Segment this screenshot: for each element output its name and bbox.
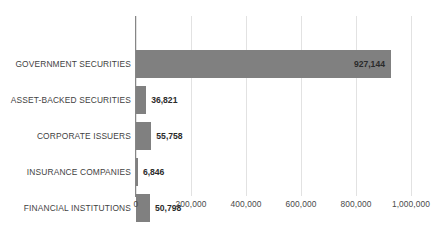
gridline [411,16,412,196]
bar-band: 36,821 [136,86,411,114]
bar-band: 6,846 [136,158,411,186]
plot-area: 927,144 36,821 55,758 6,846 50,798 [136,16,411,196]
tick-label: 1,000,000 [392,199,430,209]
category-label: GOVERNMENT SECURITIES [0,50,131,78]
bar-value-label: 36,821 [146,86,177,114]
tick-label: 600,000 [286,199,317,209]
bar[interactable] [136,122,151,150]
category-label: ASSET-BACKED SECURITIES [0,86,131,114]
bar[interactable] [136,86,146,114]
category-label: INSURANCE COMPANIES [0,158,131,186]
bar-value-label: 55,758 [151,122,182,150]
tick-label: 0 [134,199,139,209]
value-axis-tick-labels: 0 200,000 400,000 600,000 800,000 1,000,… [0,199,447,215]
tick-label: 200,000 [176,199,207,209]
bar-value-label: 6,846 [138,158,165,186]
category-label: CORPORATE ISSUERS [0,122,131,150]
bar-value-label: 927,144 [354,50,385,78]
tick-label: 400,000 [231,199,262,209]
bar-band: 55,758 [136,122,411,150]
bar-chart: GOVERNMENT SECURITIES ASSET-BACKED SECUR… [0,0,447,236]
bar[interactable] [136,50,391,78]
tick-label: 800,000 [341,199,372,209]
category-axis-labels: GOVERNMENT SECURITIES ASSET-BACKED SECUR… [0,50,131,196]
bar-band: 927,144 [136,50,411,78]
